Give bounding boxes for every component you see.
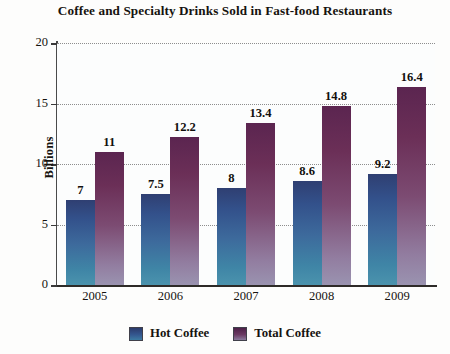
chart-title: Coffee and Specialty Drinks Sold in Fast… [0,3,450,19]
bar-total-coffee-2005 [95,152,124,285]
legend-label: Total Coffee [254,326,321,341]
x-axis-tick-label: 2005 [65,289,125,304]
y-axis-title: Billions [42,113,57,203]
bar-hot-coffee-2009 [368,174,397,285]
bar-value-label: 11 [86,135,133,150]
bar-hot-coffee-2008 [293,181,322,285]
legend-item-total-coffee[interactable]: Total Coffee [233,326,321,341]
bar-hot-coffee-2005 [66,200,95,285]
bar-total-coffee-2006 [170,137,199,285]
y-axis-tick [51,285,57,287]
y-axis-tick-label: 0 [14,277,48,292]
legend-swatch-icon [129,327,143,341]
y-axis-tick-label: 15 [14,96,48,111]
gridline [57,43,435,44]
bar-value-label: 13.4 [237,106,284,121]
bar-total-coffee-2008 [322,106,351,285]
legend-item-hot-coffee[interactable]: Hot Coffee [129,326,209,341]
bar-value-label: 16.4 [388,70,435,85]
chart-page: Drinks Sold Coffee and Specialty Drinks … [0,0,450,354]
gridline [57,104,435,105]
x-axis-line [56,285,437,287]
bar-hot-coffee-2007 [217,188,246,285]
chart-legend: Hot CoffeeTotal Coffee [0,326,450,341]
y-axis-tick [51,225,57,227]
plot-area: 7117.512.2813.48.614.89.216.4 [57,43,435,285]
legend-label: Hot Coffee [150,326,209,341]
bar-total-coffee-2007 [246,123,275,285]
y-axis-tick [51,104,57,106]
x-axis-tick-label: 2009 [367,289,427,304]
x-axis-tick-label: 2008 [292,289,352,304]
x-axis-tick-label: 2007 [216,289,276,304]
bar-value-label: 14.8 [313,89,360,104]
x-axis-tick-label: 2006 [140,289,200,304]
y-axis-tick-label: 20 [14,35,48,50]
y-axis-tick [51,43,57,45]
bar-value-label: 12.2 [161,120,208,135]
bar-hot-coffee-2006 [141,194,170,285]
legend-swatch-icon [233,327,247,341]
bar-total-coffee-2009 [397,87,426,285]
y-axis-tick-label: 5 [14,217,48,232]
